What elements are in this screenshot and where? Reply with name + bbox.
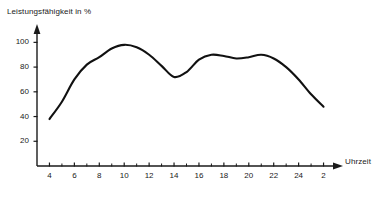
data-series-line bbox=[49, 45, 323, 119]
axes bbox=[34, 24, 343, 169]
y-axis-arrow-icon bbox=[34, 24, 41, 34]
performance-curve-chart: Leistungsfähigkeit in % Uhrzeit 20406080… bbox=[0, 0, 379, 198]
x-axis-arrow-icon bbox=[333, 163, 343, 170]
chart-canvas bbox=[0, 0, 379, 198]
